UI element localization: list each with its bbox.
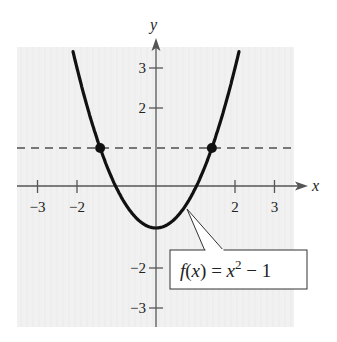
intersection-point <box>95 143 105 153</box>
y-tick-label: −3 <box>130 300 146 316</box>
y-tick-label: 3 <box>139 60 147 76</box>
x-tick-label: 3 <box>271 199 279 215</box>
x-tick-label: −3 <box>30 199 46 215</box>
y-tick-label: −2 <box>130 260 146 276</box>
x-tick-label: −2 <box>69 199 85 215</box>
x-tick-label: 2 <box>231 199 239 215</box>
function-graph: x y −3−223 32−2−3 f(x) = x2 − 1 <box>0 0 337 342</box>
y-tick-label: 2 <box>139 100 147 116</box>
intersection-point <box>207 143 217 153</box>
y-axis-label: y <box>148 16 158 34</box>
function-label: f(x) = x2 − 1 <box>180 257 271 282</box>
x-axis-label: x <box>311 177 319 194</box>
